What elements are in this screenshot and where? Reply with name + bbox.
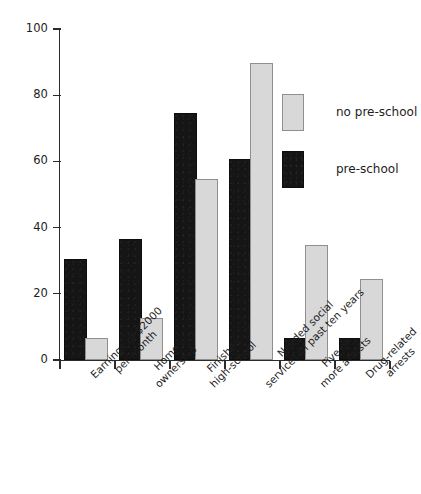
- y-axis-tick-label: 20: [8, 288, 48, 300]
- legend-swatch-no-pre-school: [282, 94, 304, 131]
- legend-label-pre-school: pre-school: [336, 163, 398, 176]
- bar-no-pre-school: [195, 179, 218, 360]
- legend-entry-no-pre-school: no pre-school: [282, 94, 417, 131]
- y-axis-tick-label-text: 0: [14, 354, 48, 366]
- y-axis-tick-label: 0: [8, 354, 48, 366]
- y-axis-tick-label-text: 60: [14, 155, 48, 167]
- x-axis-tick: [59, 361, 60, 369]
- y-axis-tick-label-text: 100: [14, 23, 48, 35]
- legend-swatch-pre-school: [282, 151, 304, 188]
- bar-pre-school: [174, 113, 197, 360]
- legend-label-no-pre-school: no pre-school: [336, 106, 417, 119]
- bar-no-pre-school: [250, 63, 273, 360]
- y-axis-tick-label-text: 20: [14, 288, 48, 300]
- legend-entry-pre-school: pre-school: [282, 151, 398, 188]
- y-axis-tick-label: 100: [8, 23, 48, 35]
- y-axis-tick-label: 40: [8, 222, 48, 234]
- y-axis-tick-label-text: 80: [14, 89, 48, 101]
- y-axis-tick-label: 60: [8, 155, 48, 167]
- y-axis-tick-label: 80: [8, 89, 48, 101]
- bar-pre-school: [64, 259, 87, 360]
- y-axis-tick-label-text: 40: [14, 222, 48, 234]
